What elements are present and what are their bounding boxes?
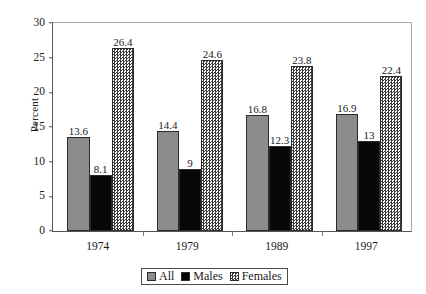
- bar-value-label: 26.4: [112, 37, 133, 48]
- x-tick-mark: [232, 231, 233, 236]
- y-tick-label: 0: [39, 225, 49, 237]
- x-tick-label-1997: 1997: [355, 240, 378, 252]
- bar-value-label: 12.3: [269, 135, 290, 146]
- y-tick-10: 10: [34, 156, 54, 168]
- bar-value-label: 14.4: [157, 120, 178, 131]
- x-tick-mark: [322, 231, 323, 236]
- legend-label-females: Females: [242, 270, 282, 282]
- legend-item-males: Males: [181, 270, 222, 282]
- legend-item-all: All: [147, 270, 174, 282]
- y-tick-25: 25: [34, 52, 54, 64]
- bar-1974-males: 8.1: [90, 175, 112, 231]
- x-tick-mark: [143, 231, 144, 236]
- bar-1979-females: 24.6: [201, 60, 223, 231]
- bar-1974-females: 26.4: [112, 48, 134, 231]
- bar-value-label: 8.1: [93, 164, 109, 175]
- legend-label-males: Males: [193, 270, 222, 282]
- bar-1997-males: 13: [358, 141, 380, 231]
- y-tick-mark: [49, 92, 53, 93]
- x-tick-label-1974: 1974: [86, 240, 109, 252]
- plot-area: 30 25 20 15 10 5 0: [52, 22, 412, 232]
- y-tick-label: 15: [34, 121, 50, 133]
- y-tick-mark: [49, 57, 53, 58]
- legend-swatch-females-icon: [230, 272, 239, 281]
- bar-value-label: 22.4: [381, 65, 402, 76]
- y-tick-5: 5: [39, 191, 53, 203]
- y-tick-mark: [49, 127, 53, 128]
- cropped-caption-sliver: [0, 0, 426, 8]
- bar-1979-all: 14.4: [157, 131, 179, 231]
- bar-value-label: 13.6: [68, 126, 89, 137]
- legend-swatch-males-icon: [181, 272, 190, 281]
- bar-1974-all: 13.6: [67, 137, 89, 231]
- y-tick-30: 30: [34, 17, 54, 29]
- chart-legend: All Males Females: [141, 268, 288, 285]
- bar-value-label: 23.8: [291, 55, 312, 66]
- bar-1979-males: 9: [179, 169, 201, 231]
- y-tick-label: 30: [34, 17, 50, 29]
- bar-1997-all: 16.9: [336, 114, 358, 231]
- x-tick-label-1979: 1979: [176, 240, 199, 252]
- bar-1989-males: 12.3: [269, 146, 291, 231]
- y-tick-label: 20: [34, 87, 50, 99]
- bar-1989-all: 16.8: [246, 115, 268, 231]
- bar-value-label: 24.6: [202, 49, 223, 60]
- y-tick-mark: [49, 231, 53, 232]
- bar-value-label: 16.8: [247, 104, 268, 115]
- legend-item-females: Females: [230, 270, 282, 282]
- x-tick-label-1989: 1989: [265, 240, 288, 252]
- y-tick-label: 10: [34, 156, 50, 168]
- legend-label-all: All: [159, 270, 174, 282]
- y-tick-label: 5: [39, 191, 49, 203]
- bar-1997-females: 22.4: [380, 76, 402, 231]
- y-tick-20: 20: [34, 87, 54, 99]
- y-tick-15: 15: [34, 121, 54, 133]
- bar-1989-females: 23.8: [291, 66, 313, 231]
- y-tick-mark: [49, 161, 53, 162]
- bar-value-label: 13: [363, 130, 376, 141]
- y-tick-mark: [49, 196, 53, 197]
- bar-value-label: 16.9: [336, 103, 357, 114]
- y-tick-0: 0: [39, 225, 53, 237]
- bar-chart: Percent 30 25 20 15 10 5 0: [0, 0, 426, 294]
- bar-value-label: 9: [186, 158, 194, 169]
- y-tick-mark: [49, 23, 53, 24]
- y-tick-label: 25: [34, 52, 50, 64]
- legend-swatch-all-icon: [147, 272, 156, 281]
